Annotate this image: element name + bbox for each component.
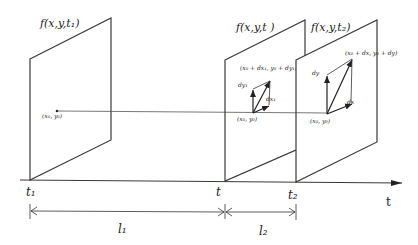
frame-2-dy-label: dy₁ [238,81,248,89]
axis-label-t: t [386,195,391,209]
time-label-t1: t₁ [26,185,36,199]
time-label-t2: t₂ [288,188,298,202]
frame-1-label: f(x,y,t₁) [39,17,79,30]
frame-2-origin-label: (x₀, y₀) [237,115,258,123]
temporal-frames-diagram: f(x,y,t₁) (x₀, y₀) f(x,y,t ) (x₀ + dx₁, … [0,0,418,245]
frame-3-target-label: (x₀ + dx, y₀ + dy) [345,49,398,57]
interval-dimensions: l₁ l₂ [30,204,296,238]
frame-3-origin-label: (x₀, y₀) [310,117,331,125]
frame-2: f(x,y,t ) (x₀ + dx₁, y₀ + dy₁) dy₁ dx₁ (… [225,20,305,181]
frame-3-label: f(x,y,t₂) [310,21,350,34]
frame-2-label: f(x,y,t ) [235,21,275,34]
interval-label-l1: l₁ [118,222,127,236]
frame-1-point-label: (x₀, y₀) [42,112,63,120]
frame-3-dy-label: dy [312,69,320,77]
interval-label-l2: l₂ [259,224,268,238]
frame-2-dx-label: dx₁ [266,95,276,102]
frame-2-target-label: (x₀ + dx₁, y₀ + dy₁) [240,64,298,72]
frame-3: f(x,y,t₂) (x₀ + dx, y₀ + dy) dy dx (x₀, … [296,20,398,182]
time-label-t: t [216,185,221,199]
time-axis [20,180,402,183]
frame-1: f(x,y,t₁) (x₀, y₀) [30,17,111,180]
